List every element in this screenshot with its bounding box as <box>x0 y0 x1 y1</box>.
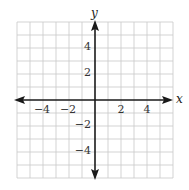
x-axis-label: x <box>176 92 183 106</box>
y-axis-label: y <box>90 6 98 20</box>
coordinate-plane: x y −4 −2 2 4 4 2 −2 −4 <box>0 0 189 190</box>
y-tick-label: −4 <box>75 144 91 157</box>
x-tick-label: −2 <box>60 103 76 116</box>
y-tick-label: −2 <box>75 118 91 131</box>
y-tick-label: 4 <box>84 40 91 53</box>
y-tick-label: 2 <box>84 66 91 79</box>
x-tick-label: 4 <box>144 103 151 116</box>
x-tick-label: −4 <box>34 103 50 116</box>
x-tick-label: 2 <box>118 103 125 116</box>
